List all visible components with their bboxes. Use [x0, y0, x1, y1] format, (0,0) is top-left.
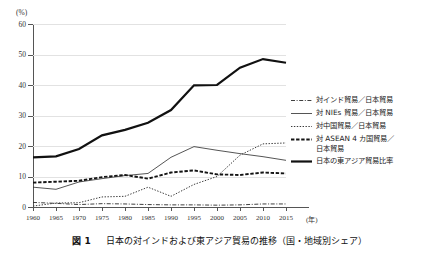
figure-caption: 図 1 日本の対インドおよび東アジア貿易の推移（国・地域別シェア）: [0, 234, 439, 247]
series-line: [33, 59, 286, 157]
x-axis-unit-label: (年): [306, 214, 318, 224]
x-tick-mark: [125, 207, 126, 211]
legend-asean4-label: 対 ASEAN 4 カ国貿易／ 日本貿易: [316, 134, 394, 153]
legend-china[interactable]: 対中国貿易／日本貿易: [291, 121, 437, 131]
x-tick-mark: [102, 207, 103, 211]
y-tick-label: 0: [4, 203, 26, 212]
legend-asean4[interactable]: 対 ASEAN 4 カ国貿易／ 日本貿易: [291, 134, 437, 153]
legend-east-asia-marker-icon: [291, 156, 312, 166]
caption-title: 日本の対インドおよび東アジア貿易の推移（国・地域別シェア）: [106, 236, 367, 246]
y-tick-label: 50: [4, 50, 26, 59]
y-axis-unit-label: (%): [16, 8, 27, 17]
y-tick-label: 40: [4, 81, 26, 90]
series-line: [33, 170, 286, 182]
legend-nies-marker-icon: [291, 108, 312, 118]
y-tick-label: 20: [4, 142, 26, 151]
x-tick-mark: [217, 207, 218, 211]
x-tick-mark: [286, 207, 287, 211]
x-tick-mark: [240, 207, 241, 211]
legend-india-marker-icon: [291, 95, 312, 105]
caption-number: 図 1: [72, 236, 90, 246]
figure-root: (%) 0102030405060 1960196519701975198019…: [0, 0, 439, 253]
legend-nies[interactable]: 対 NIEs 貿易／日本貿易: [291, 108, 437, 118]
legend-china-marker-icon: [291, 121, 312, 131]
x-tick-mark: [56, 207, 57, 211]
legend-india-label: 対インド貿易／日本貿易: [316, 95, 393, 105]
x-tick-mark: [33, 207, 34, 211]
legend-asean4-marker-icon: [291, 134, 312, 144]
legend-east-asia-label: 日本の東アジア貿易比率: [316, 156, 393, 166]
x-tick-mark: [263, 207, 264, 211]
plot-area: [33, 24, 286, 207]
series-lines: [33, 24, 286, 207]
y-tick-label: 30: [4, 111, 26, 120]
x-tick-mark: [79, 207, 80, 211]
x-tick-mark: [194, 207, 195, 211]
legend-east-asia[interactable]: 日本の東アジア貿易比率: [291, 156, 437, 166]
y-tick-label: 10: [4, 172, 26, 181]
y-tick-label: 60: [4, 20, 26, 29]
caption-spacer: [94, 236, 103, 246]
series-line: [33, 147, 286, 190]
legend-nies-label: 対 NIEs 貿易／日本貿易: [316, 108, 393, 118]
x-tick-mark: [171, 207, 172, 211]
legend-china-label: 対中国貿易／日本貿易: [316, 121, 386, 131]
x-tick-label: 2015: [271, 214, 301, 222]
chart-legend: 対インド貿易／日本貿易対 NIEs 貿易／日本貿易対中国貿易／日本貿易対 ASE…: [291, 95, 437, 169]
x-tick-mark: [148, 207, 149, 211]
legend-india[interactable]: 対インド貿易／日本貿易: [291, 95, 437, 105]
